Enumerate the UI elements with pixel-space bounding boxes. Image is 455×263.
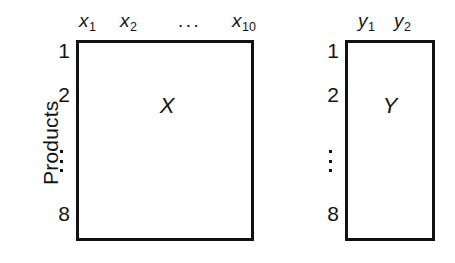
column-header-x10-subscript: 10 [242, 20, 256, 34]
vdot [329, 169, 332, 172]
matrix-label-x: X [147, 93, 187, 119]
column-header-y2-var: y [394, 10, 404, 31]
vdot [60, 160, 63, 163]
row-label-x-2: 2 [52, 84, 70, 105]
column-header-x2-var: x [120, 10, 130, 31]
row-ellipsis-y-icon [321, 150, 339, 172]
row-label-y-1: 1 [321, 40, 339, 61]
column-header-x2: x2 [120, 10, 136, 34]
column-header-x10: x10 [232, 10, 255, 34]
column-header-y1-subscript: 1 [368, 20, 375, 34]
vdot [60, 150, 63, 153]
column-header-x1-subscript: 1 [89, 20, 96, 34]
column-header-x1-var: x [79, 10, 89, 31]
row-label-x-1: 1 [52, 40, 70, 61]
column-header-x10-var: x [232, 10, 242, 31]
vdot [60, 169, 63, 172]
matrix-diagram: Products x1 x2 ... x10 y1 y2 1 2 8 1 2 8… [0, 0, 455, 263]
row-label-y-2: 2 [321, 84, 339, 105]
column-header-x1: x1 [79, 10, 95, 34]
column-header-y1-var: y [358, 10, 368, 31]
row-label-y-8: 8 [321, 203, 339, 224]
row-ellipsis-x-icon [52, 150, 70, 172]
matrix-box-x [76, 40, 254, 241]
column-header-y1: y1 [358, 10, 374, 34]
vdot [329, 160, 332, 163]
column-header-ellipsis: ... [178, 10, 201, 32]
column-header-y2: y2 [394, 10, 410, 34]
column-header-x2-subscript: 2 [130, 20, 137, 34]
matrix-box-y [345, 40, 435, 241]
vdot [329, 150, 332, 153]
matrix-label-y: Y [370, 93, 410, 119]
row-label-x-8: 8 [52, 203, 70, 224]
column-header-y2-subscript: 2 [404, 20, 411, 34]
